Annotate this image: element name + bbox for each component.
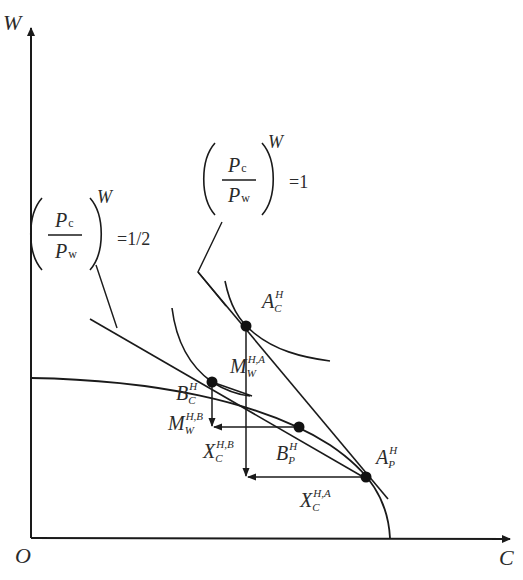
ratio-half-denominator: Pw (55, 241, 77, 261)
label-imports-a: MH,AW (230, 356, 277, 376)
ratio-half-value: =1/2 (117, 230, 150, 248)
point-a-consumption (241, 321, 252, 332)
ratio-1-denominator: Pw (228, 185, 250, 205)
ratio-1-numerator: Pc (228, 155, 247, 175)
trade-diagram: W C O Pc Pw W =1 Pc Pw W =1/2 AHC BHC BH… (0, 0, 523, 580)
ratio-half-numerator: Pc (55, 210, 74, 230)
label-imports-b: MH,BW (168, 413, 215, 433)
label-a-production: AHP (376, 447, 410, 467)
point-b-production (294, 422, 305, 433)
x-axis (31, 538, 510, 539)
y-axis-label: W (3, 12, 21, 34)
label-b-production: BHP (276, 443, 310, 463)
label-b-consumption: BHC (176, 383, 210, 403)
ratio-1-value: =1 (289, 173, 308, 191)
ratio-half-superscript: W (97, 188, 112, 206)
x-axis-label: C (499, 547, 514, 569)
leader-ratio-half (96, 265, 117, 328)
origin-label: O (15, 545, 31, 567)
point-a-production (361, 472, 372, 483)
label-a-consumption: AHC (262, 291, 296, 311)
ratio-1-superscript: W (268, 133, 283, 151)
label-exports-a: XH,AC (300, 490, 342, 510)
label-exports-b: XH,BC (203, 441, 245, 461)
leader-ratio-1 (198, 222, 226, 306)
